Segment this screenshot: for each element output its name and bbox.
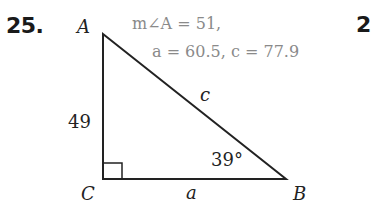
triangle-outline <box>103 34 286 179</box>
vertex-label-b: B <box>293 183 306 204</box>
side-label-ac: 49 <box>68 111 91 132</box>
side-label-cb: a <box>186 182 197 203</box>
right-angle-marker <box>103 163 122 179</box>
side-label-ab: c <box>200 84 210 105</box>
angle-b-label: 39° <box>211 149 243 170</box>
vertex-label-c: C <box>81 183 95 204</box>
